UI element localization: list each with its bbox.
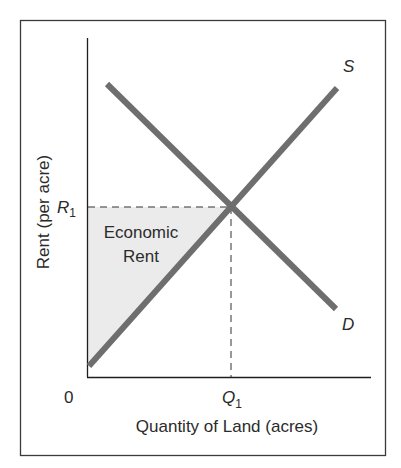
- x-axis-title: Quantity of Land (acres): [136, 417, 318, 436]
- r1-subscript: 1: [69, 206, 76, 220]
- y-axis-title: Rent (per acre): [34, 155, 53, 269]
- q1-subscript: 1: [235, 397, 242, 411]
- r1-base: R: [57, 198, 69, 217]
- supply-label: S: [343, 57, 355, 76]
- origin-label: 0: [64, 388, 73, 407]
- economic-rent-label-line2: Rent: [123, 247, 159, 266]
- economic-rent-label-line1: Economic: [104, 223, 179, 242]
- q1-base: Q: [222, 388, 235, 407]
- economic-rent-diagram: S D Economic Rent R1 0 Q1 Quantity of La…: [0, 0, 401, 468]
- demand-label: D: [342, 315, 354, 334]
